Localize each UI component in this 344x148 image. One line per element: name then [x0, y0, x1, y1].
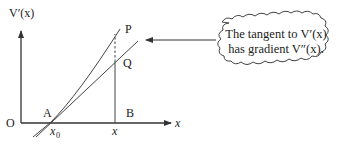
- point-a-label: A: [43, 106, 52, 120]
- callout-text-line2: has gradient V″(x).: [228, 42, 324, 56]
- point-q-label: Q: [123, 56, 132, 70]
- point-b-label: B: [126, 106, 134, 120]
- curve-v-prime: [33, 29, 120, 137]
- callout-text-line1: The tangent to V′(x): [225, 27, 326, 41]
- point-p-label: P: [125, 22, 132, 36]
- tangent-gradient-diagram: V′(x) O x A B P Q x 0 x The tangent to V…: [0, 0, 344, 148]
- tick-x0-label: x: [49, 124, 56, 138]
- y-axis-label: V′(x): [9, 6, 34, 20]
- tick-x-label: x: [111, 124, 118, 138]
- x-axis-label: x: [174, 116, 181, 130]
- origin-label: O: [6, 116, 15, 130]
- tick-x0-subscript: 0: [56, 131, 60, 140]
